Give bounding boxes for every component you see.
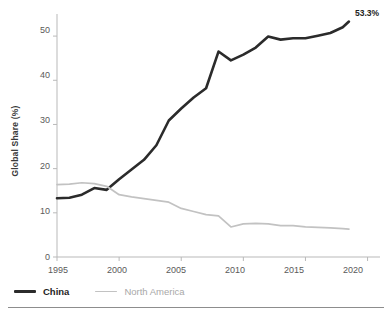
data-series-layer: [57, 22, 349, 230]
china-end-value-annotation: 53.3%: [355, 8, 379, 18]
legend-label-china: China: [43, 286, 69, 297]
plot-area: [0, 0, 392, 316]
y-axis-ticks: [53, 36, 57, 257]
legend-item-north-america[interactable]: North America: [95, 286, 184, 297]
footer-divider: [8, 307, 384, 308]
x-axis-ticks: [57, 257, 368, 261]
chart-legend: China North America: [14, 286, 185, 297]
line-chart: Global Share (%) 50 40 30 20 10 0 1995 2…: [0, 0, 392, 316]
north-america-line-swatch: [95, 291, 117, 293]
legend-label-north-america: North America: [124, 286, 184, 297]
china-line-swatch: [14, 290, 36, 293]
series-line-china: [57, 22, 349, 199]
legend-item-china[interactable]: China: [14, 286, 69, 297]
